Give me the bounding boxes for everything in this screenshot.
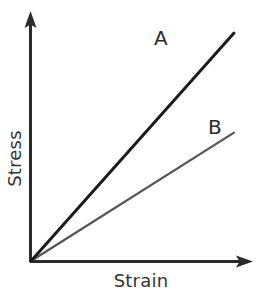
stress-strain-chart: A B Stress Strain xyxy=(0,0,257,301)
x-axis-title: Strain xyxy=(106,270,176,291)
series-label-b: B xyxy=(208,115,222,139)
y-axis-title: Stress xyxy=(0,118,28,198)
chart-canvas xyxy=(0,0,257,301)
series-label-a: A xyxy=(154,26,168,50)
series-line-a xyxy=(31,33,234,261)
y-axis-title-text: Stress xyxy=(4,130,25,187)
series-line-b xyxy=(31,133,234,261)
